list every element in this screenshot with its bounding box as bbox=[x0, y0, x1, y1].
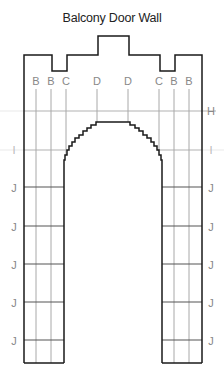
door-arch-outline bbox=[64, 122, 162, 363]
wall-diagram: BBCDDCBBHIIJJJJJJJJJJ bbox=[0, 0, 224, 380]
row-label-i: I bbox=[209, 144, 212, 156]
grid-lines bbox=[0, 89, 224, 363]
row-label-j: J bbox=[11, 297, 17, 309]
column-label: D bbox=[124, 75, 132, 87]
column-label: D bbox=[93, 75, 101, 87]
column-label: C bbox=[155, 75, 163, 87]
column-label: B bbox=[32, 75, 39, 87]
grid-labels: BBCDDCBBHIIJJJJJJJJJJ bbox=[11, 75, 215, 347]
row-label-j: J bbox=[208, 259, 214, 271]
column-label: C bbox=[62, 75, 70, 87]
column-label: B bbox=[185, 75, 192, 87]
row-label-j: J bbox=[11, 182, 17, 194]
row-label-j: J bbox=[208, 335, 214, 347]
row-label-h: H bbox=[207, 105, 215, 117]
column-label: B bbox=[47, 75, 54, 87]
row-label-j: J bbox=[11, 221, 17, 233]
row-label-j: J bbox=[11, 335, 17, 347]
row-label-i: I bbox=[12, 144, 15, 156]
column-label: B bbox=[170, 75, 177, 87]
row-label-j: J bbox=[208, 297, 214, 309]
row-label-j: J bbox=[208, 221, 214, 233]
row-label-j: J bbox=[11, 259, 17, 271]
row-label-j: J bbox=[208, 182, 214, 194]
